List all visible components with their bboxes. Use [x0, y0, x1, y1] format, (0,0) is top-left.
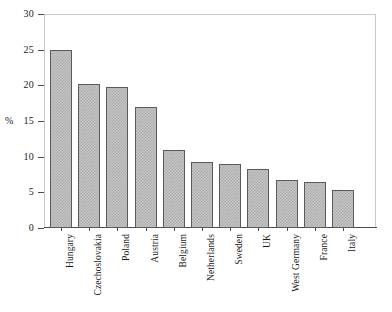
bar: [304, 182, 326, 228]
y-axis-tick: [38, 121, 44, 122]
bar: [332, 190, 354, 229]
bar: [219, 164, 241, 228]
y-axis-tick-label: 15: [14, 116, 34, 126]
y-axis-line: [44, 14, 45, 228]
x-axis-category-label: Hungary: [65, 234, 75, 268]
bar: [163, 150, 185, 229]
bar: [247, 169, 269, 228]
y-axis-tick-label: 25: [14, 45, 34, 55]
bar: [50, 50, 72, 228]
y-axis-tick: [38, 192, 44, 193]
x-axis-tick: [146, 228, 147, 231]
x-axis-tick: [287, 228, 288, 231]
y-axis-tick: [38, 50, 44, 51]
x-axis-tick: [202, 228, 203, 231]
y-axis-title: %: [5, 116, 13, 126]
x-axis-category-label: UK: [262, 234, 272, 248]
y-axis-tick-label: 0: [14, 223, 34, 233]
x-axis-tick: [258, 228, 259, 231]
x-axis-tick: [315, 228, 316, 231]
y-axis-tick-label: 10: [14, 152, 34, 162]
x-axis-category-label: Belgium: [178, 234, 188, 267]
y-axis-tick: [38, 14, 44, 15]
x-axis-category-label: Netherlands: [206, 234, 216, 281]
x-axis-tick: [230, 228, 231, 231]
bar: [191, 162, 213, 228]
x-axis-tick: [61, 228, 62, 231]
y-axis-tick: [38, 228, 44, 229]
y-axis-tick-label: 30: [14, 9, 34, 19]
x-axis-category-label: Sweden: [234, 234, 244, 265]
y-axis-tick-label: 5: [14, 187, 34, 197]
y-axis-tick: [38, 85, 44, 86]
bar: [276, 180, 298, 228]
x-axis-tick: [174, 228, 175, 231]
x-axis-tick: [89, 228, 90, 231]
x-axis-category-label: West Germany: [291, 234, 301, 292]
x-axis-category-label: Czechoslovakia: [93, 234, 103, 296]
x-axis-category-label: Poland: [121, 234, 131, 261]
y-axis-tick-label: 20: [14, 80, 34, 90]
y-axis-tick: [38, 157, 44, 158]
bar: [106, 87, 128, 228]
x-axis-tick: [343, 228, 344, 231]
bar: [78, 84, 100, 228]
x-axis-category-label: France: [319, 234, 329, 260]
bar: [135, 107, 157, 228]
x-axis-category-label: Austria: [150, 234, 160, 263]
x-axis-category-label: Italy: [347, 234, 357, 252]
bar-chart: % 051015202530 HungaryCzechoslovakiaPola…: [0, 0, 392, 312]
x-axis-tick: [117, 228, 118, 231]
